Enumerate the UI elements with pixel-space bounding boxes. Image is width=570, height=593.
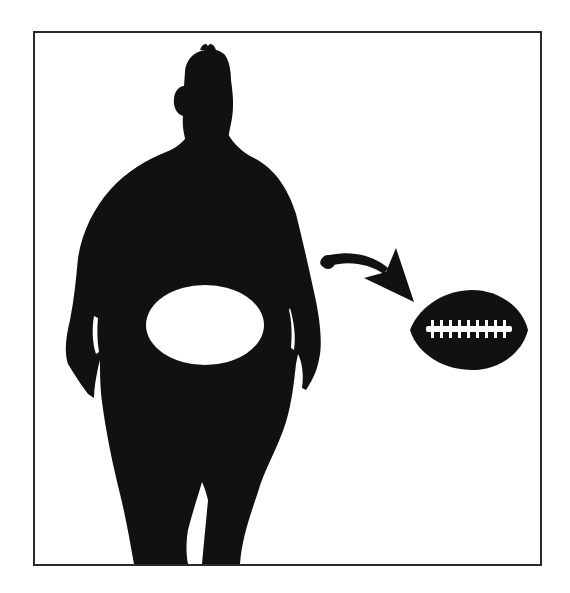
illustration-frame [33,31,542,566]
body-shape [66,134,321,564]
person-silhouette [66,44,321,564]
american-football-icon [410,290,528,370]
head-shape [174,49,233,142]
curved-arrow-icon [320,248,414,302]
illustration-canvas [35,33,540,564]
